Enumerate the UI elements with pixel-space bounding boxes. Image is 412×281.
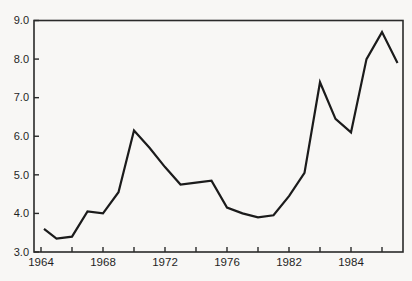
y-axis-tick-label: 5.0 <box>14 169 29 181</box>
y-axis-tick-label: 8.0 <box>14 53 29 65</box>
y-axis-tick-label: 3.0 <box>14 246 29 258</box>
x-axis-tick-label: 1984 <box>338 256 364 268</box>
chart-canvas: 3.04.05.06.07.08.09.01964196819721976198… <box>0 0 412 281</box>
y-axis-tick-label: 6.0 <box>14 130 29 142</box>
x-axis-tick-label: 1976 <box>214 256 240 268</box>
line-chart-figure: 3.04.05.06.07.08.09.01964196819721976198… <box>0 0 412 281</box>
x-axis-tick-label: 1964 <box>28 256 54 268</box>
x-axis-tick-label: 1972 <box>152 256 178 268</box>
plot-frame <box>34 21 403 253</box>
y-axis-tick-label: 7.0 <box>14 91 29 103</box>
x-axis-tick-label: 1982 <box>276 256 302 268</box>
chart-page: 3.04.05.06.07.08.09.01964196819721976198… <box>0 0 412 281</box>
data-line <box>44 32 398 238</box>
y-axis-tick-label: 4.0 <box>14 207 29 219</box>
x-axis-tick-label: 1968 <box>90 256 116 268</box>
y-axis-tick-label: 9.0 <box>14 14 29 26</box>
